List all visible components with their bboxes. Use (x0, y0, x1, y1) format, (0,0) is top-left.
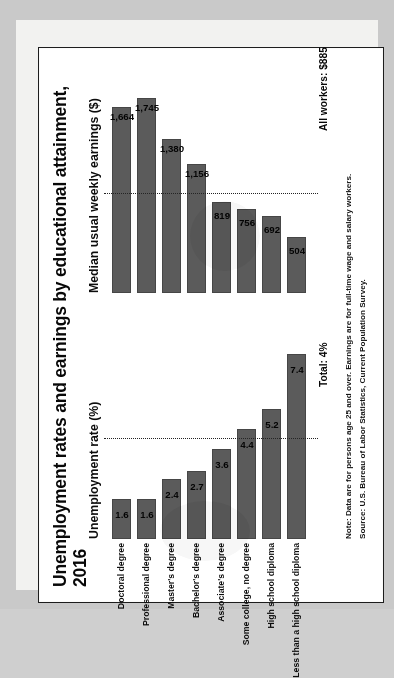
chart-note: Note: Data are for persons age 25 and ov… (344, 174, 353, 539)
bar-row: 1,745 (137, 81, 156, 293)
bar-row: 1.6 (112, 339, 131, 539)
bar-value-label: 1.6 (140, 509, 153, 520)
bar-value-label: 5.2 (265, 419, 278, 430)
category-label: High school diploma (262, 543, 281, 628)
bar (287, 354, 306, 539)
category-label: Less than a high school diploma (287, 543, 306, 678)
bar-value-label: 4.4 (240, 439, 253, 450)
bar-value-label: 1.6 (115, 509, 128, 520)
bar (137, 98, 156, 293)
bar-value-label: 504 (288, 245, 304, 256)
bar-value-label: 1,380 (159, 144, 183, 155)
bar-value-label: 2.7 (190, 481, 203, 492)
bar (112, 107, 131, 293)
bar-row: 4.4 (237, 339, 256, 539)
bar-value-label: 3.6 (215, 459, 228, 470)
bar-value-label: 2.4 (165, 489, 178, 500)
bar-row: 692 (262, 81, 281, 293)
chart-frame-border: Unemployment rates and earnings by educa… (38, 47, 384, 603)
axis-label-unemployment: Unemployment rate (%) (87, 402, 101, 539)
bar-value-label: 1,745 (134, 103, 158, 114)
category-label: Professional degree (137, 543, 156, 626)
bar-value-label: 692 (263, 224, 279, 235)
reference-label-all-workers: All workers: $885 (318, 47, 329, 131)
bar-value-label: 7.4 (290, 364, 303, 375)
paper-sheet: Unemployment rates and earnings by educa… (16, 20, 378, 590)
bar-value-label: 1,156 (184, 169, 208, 180)
bar-row: 1.6 (137, 339, 156, 539)
bar-row: 5.2 (262, 339, 281, 539)
bar-row: 7.4 (287, 339, 306, 539)
rotated-chart-wrapper: Unemployment rates and earnings by educa… (40, 49, 382, 601)
bar-row: 504 (287, 81, 306, 293)
category-label: Doctoral degree (112, 543, 131, 609)
reference-line (104, 438, 318, 439)
scan-artifact (190, 201, 260, 271)
chart-canvas: Unemployment rates and earnings by educa… (40, 49, 382, 601)
bar-row: 1,664 (112, 81, 131, 293)
bar (162, 139, 181, 293)
chart-source: Source: U.S. Bureau of Labor Statistics,… (358, 279, 367, 539)
axis-label-earnings: Median usual weekly earnings ($) (87, 98, 101, 293)
chart-title: Unemployment rates and earnings by educa… (50, 57, 90, 587)
scan-artifact (160, 501, 250, 561)
bar-value-label: 1,664 (109, 112, 133, 123)
reference-line (104, 193, 318, 194)
category-label: Some college, no degree (237, 543, 256, 645)
bar-row: 1,380 (162, 81, 181, 293)
reference-label-total: Total: 4% (318, 342, 329, 387)
